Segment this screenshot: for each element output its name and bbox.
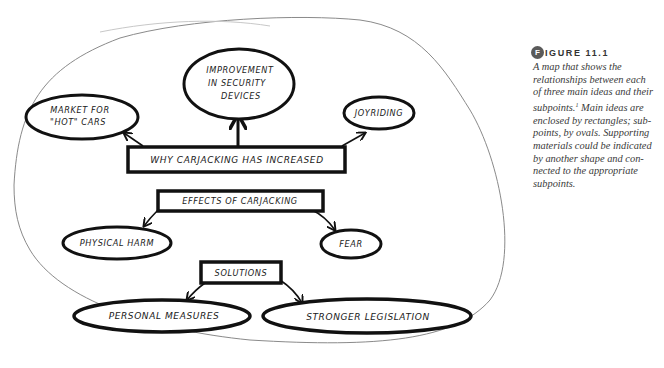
caption-line: enclosed by rectangles; sub- (533, 115, 664, 128)
main-idea-solutions-label: SOLUTIONS (215, 268, 268, 279)
caption-line: points, by ovals. Supporting (533, 127, 664, 140)
figure-badge-icon: F (531, 46, 544, 59)
caption-line: relationships between each (533, 74, 664, 87)
figure-caption-text: A map that shows the relationships betwe… (533, 61, 664, 190)
subpoint-personal-measures-label: PERSONAL MEASURES (109, 311, 220, 322)
caption-line: subpoints.1 Main ideas are (533, 99, 664, 115)
figure-caption: F IGURE 11.1 A map that shows the relati… (531, 46, 664, 190)
caption-fragment: subpoints. (533, 102, 575, 113)
caption-fragment: Main ideas are (578, 102, 643, 113)
caption-line: nected to the appropriate (533, 165, 664, 178)
subpoint-fear-label: FEAR (339, 239, 363, 250)
subpoint-improvement-label-1: IMPROVEMENT (206, 65, 273, 76)
figure-number: IGURE 11.1 (545, 48, 609, 58)
caption-line: by another shape and con- (533, 153, 664, 166)
subpoint-physical-harm-label: PHYSICAL HARM (80, 238, 155, 249)
main-idea-effects-label: EFFECTS OF CARJACKING (182, 196, 298, 207)
caption-line: materials could be indicated (533, 140, 664, 153)
subpoint-improvement-label-3: DEVICES (221, 91, 261, 102)
figure-heading: F IGURE 11.1 (531, 46, 664, 59)
main-idea-why-label: WHY CARJACKING HAS INCREASED (150, 155, 323, 166)
caption-line: A map that shows the (533, 61, 664, 74)
subpoint-market-label-1: MARKET FOR (50, 105, 109, 116)
caption-line: subpoints. (533, 178, 664, 191)
subpoint-market-label-2: "HOT" CARS (50, 117, 106, 128)
caption-line: of three main ideas and their (533, 86, 664, 99)
subpoint-stronger-legislation-label: STRONGER LEGISLATION (306, 312, 430, 323)
subpoint-improvement-label-2: IN SECURITY (208, 78, 266, 89)
subpoint-joyriding-label: JOYRIDING (355, 108, 404, 119)
